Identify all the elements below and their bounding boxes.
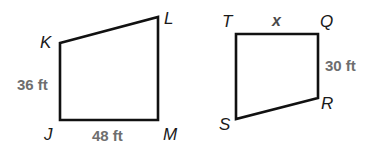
diagram-canvas: K L J M 36 ft 48 ft T Q R S x 30 ft <box>0 0 380 146</box>
side-qr-measurement: 30 ft <box>325 57 356 74</box>
side-tq-variable: x <box>271 12 282 29</box>
vertex-label-j: J <box>43 125 53 144</box>
vertex-label-r: R <box>321 94 333 113</box>
vertex-label-k: K <box>40 33 52 52</box>
quadrilateral-qrst-outline <box>236 34 318 119</box>
quadrilateral-qrst: T Q R S x 30 ft <box>219 12 356 134</box>
quadrilateral-jklm: K L J M 36 ft 48 ft <box>17 9 178 144</box>
vertex-label-s: S <box>219 115 231 134</box>
quadrilateral-jklm-outline <box>60 17 158 120</box>
side-jm-measurement: 48 ft <box>92 127 123 144</box>
vertex-label-m: M <box>163 125 178 144</box>
vertex-label-q: Q <box>320 12 333 31</box>
vertex-label-l: L <box>164 9 173 28</box>
side-jk-measurement: 36 ft <box>17 76 48 93</box>
vertex-label-t: T <box>222 12 234 31</box>
